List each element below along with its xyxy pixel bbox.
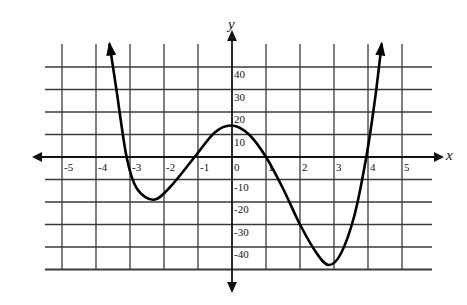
x-axis-label: x bbox=[445, 147, 453, 163]
x-tick-label: 0 bbox=[234, 161, 240, 173]
y-tick-label: 40 bbox=[234, 68, 246, 80]
function-graph: -5-4-3-2-1012345 -40-30-20-1010203040 x … bbox=[0, 0, 467, 305]
y-tick-label: -20 bbox=[234, 203, 249, 215]
x-tick-label: -2 bbox=[166, 161, 175, 173]
y-tick-label: 30 bbox=[234, 91, 246, 103]
y-tick-label: -10 bbox=[234, 181, 249, 193]
x-tick-labels: -5-4-3-2-1012345 bbox=[64, 161, 410, 173]
x-tick-label: 5 bbox=[404, 161, 410, 173]
x-tick-label: -3 bbox=[132, 161, 142, 173]
x-tick-label: 4 bbox=[370, 161, 376, 173]
x-tick-label: 2 bbox=[302, 161, 308, 173]
y-tick-label: -40 bbox=[234, 248, 249, 260]
x-tick-label: -5 bbox=[64, 161, 74, 173]
y-tick-label: 10 bbox=[234, 136, 246, 148]
curve-arrowheads bbox=[106, 42, 385, 57]
y-tick-label: 20 bbox=[234, 113, 246, 125]
x-tick-label: -1 bbox=[200, 161, 209, 173]
y-axis-label: y bbox=[226, 16, 235, 32]
x-tick-label: -4 bbox=[98, 161, 108, 173]
x-tick-label: 3 bbox=[336, 161, 342, 173]
y-tick-label: -30 bbox=[234, 226, 249, 238]
